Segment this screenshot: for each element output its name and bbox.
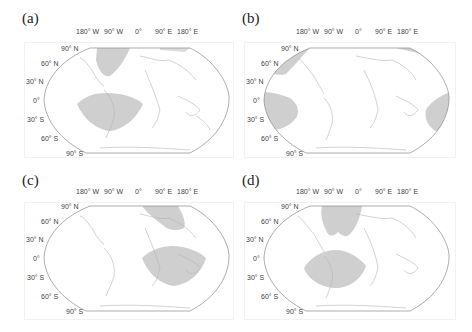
- panel-d: (d) 180° W 90° W 0° 90° E 180° E 90° N 6…: [236, 158, 472, 324]
- coverage-southeast: [426, 92, 451, 132]
- panel-a: (a) 180° W 90° W 0° 90° E 180° E 90° N 6…: [0, 0, 236, 166]
- coverage-north: [321, 206, 362, 236]
- world-map: [236, 158, 472, 324]
- world-map: [236, 0, 472, 166]
- world-map: [0, 0, 236, 166]
- coverage-northwest: [264, 48, 310, 75]
- coverage-north: [142, 206, 185, 230]
- coverage-north: [96, 48, 130, 76]
- coverage-northeast: [396, 48, 450, 80]
- panel-b: (b) 180° W 90° W 0° 90° E 180° E 90° N 6…: [236, 0, 472, 166]
- panel-c: (c) 180° W 90° W 0° 90° E 180° E 90° N 6…: [0, 158, 236, 324]
- world-map: [0, 158, 236, 324]
- coverage-south: [77, 93, 143, 131]
- coverage-south: [304, 250, 366, 288]
- coverage-south: [142, 246, 206, 286]
- coverage-southwest: [262, 92, 298, 130]
